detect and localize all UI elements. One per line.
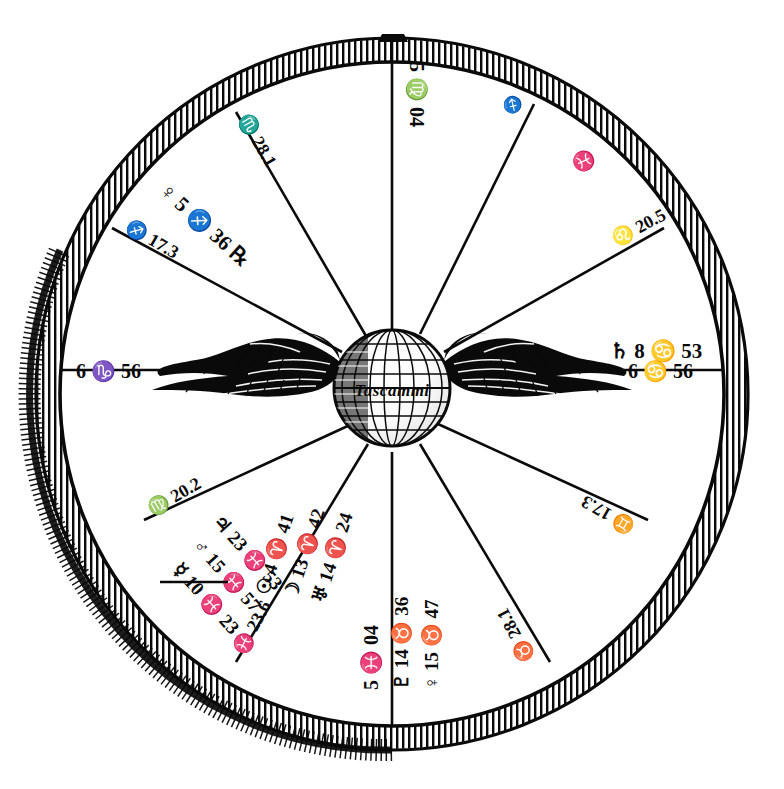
cusp-label-asc: 6 ♑ 56 bbox=[76, 359, 141, 383]
cusp-label-mc: 5 ♍ 04 bbox=[405, 62, 429, 127]
chart-canvas: Tascammi 5 ♍ 04 ♏ 28.1 ♐ 17.3 6 ♑ 56 ♍ 2… bbox=[0, 0, 784, 789]
globe-emblem: Tascammi bbox=[334, 330, 450, 446]
globe-inscription: Tascammi bbox=[354, 381, 429, 400]
planet-label-pluto: ♇ 14 ♉ 36 bbox=[390, 597, 413, 690]
planet-label-saturn: ♄ 8 ♋ 53 bbox=[610, 338, 702, 363]
horoscope-wheel: Tascammi 5 ♍ 04 ♏ 28.1 ♐ 17.3 6 ♑ 56 ♍ 2… bbox=[0, 0, 784, 789]
cusp-label-ic: 5 ♓ 04 bbox=[359, 625, 383, 690]
planet-label-venus: ♀ 15 ♉ 47 bbox=[420, 599, 443, 690]
